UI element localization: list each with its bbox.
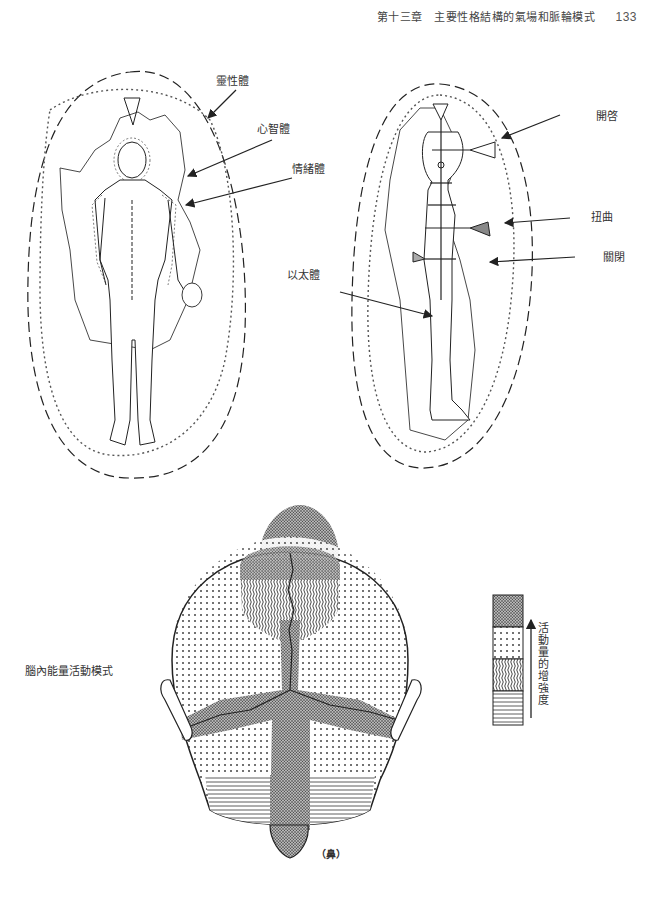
- legend-axis-label: 活動量的增強度: [537, 622, 549, 706]
- intensity-legend: [493, 595, 531, 725]
- nose-label: （鼻）: [316, 846, 346, 861]
- front-body-figure: [28, 71, 292, 478]
- label-closed: 關閉: [603, 248, 625, 264]
- figure-caption-cropped: [0, 893, 651, 897]
- brain-activity-figure: [161, 505, 421, 858]
- label-distorted: 扭曲: [591, 208, 613, 224]
- label-etheric-body: 以太體: [287, 266, 320, 282]
- label-emotional-body: 情緒體: [292, 160, 325, 176]
- brain-figure-title: 腦內能量活動模式: [25, 662, 113, 678]
- label-spiritual-body: 靈性體: [216, 72, 249, 88]
- side-body-figure: [340, 84, 575, 468]
- label-open: 開啓: [596, 107, 618, 123]
- illustration-canvas: [0, 0, 651, 897]
- label-mental-body: 心智體: [257, 120, 290, 136]
